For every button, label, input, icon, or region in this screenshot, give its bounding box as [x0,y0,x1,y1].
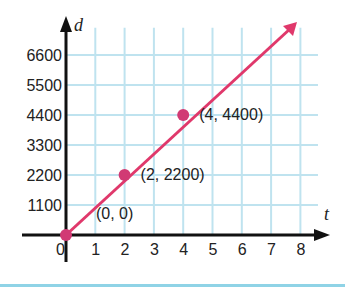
x-tick-label: 6 [238,241,247,258]
y-tick-label: 3300 [26,137,62,154]
y-tick-label: 5500 [26,77,62,94]
x-axis-label: t [324,204,330,224]
x-tick-label: 2 [121,241,130,258]
data-point-label: (2, 2200) [141,166,205,183]
axes [22,16,330,262]
x-tick-label: 0 [56,241,65,258]
data-point-marker [119,169,131,181]
y-tick-label: 4400 [26,107,62,124]
y-axis-label: d [74,15,84,35]
series-line-path [66,28,291,235]
x-tick-label: 3 [150,241,159,258]
data-point-marker [60,229,72,241]
grid [66,28,318,235]
x-tick-label: 1 [91,241,100,258]
data-point-label: (4, 4400) [199,106,263,123]
x-tick-label: 5 [209,241,218,258]
y-tick-label: 2200 [26,167,62,184]
y-axis-arrow-icon [60,16,72,32]
data-point-label: (0, 0) [96,205,133,222]
line-chart: 012345678110022003300440055006600 d t (0… [0,0,360,288]
tick-labels: 012345678110022003300440055006600 [26,47,305,258]
data-points: (0, 0)(2, 2200)(4, 4400) [60,106,263,241]
data-point-marker [177,109,189,121]
y-tick-label: 1100 [28,197,63,214]
y-tick-label: 6600 [26,47,62,64]
x-tick-label: 4 [179,241,188,258]
x-tick-label: 7 [267,241,276,258]
series-line [66,22,297,235]
x-tick-label: 8 [296,241,305,258]
bottom-divider [0,284,345,287]
x-axis-arrow-icon [314,229,330,241]
